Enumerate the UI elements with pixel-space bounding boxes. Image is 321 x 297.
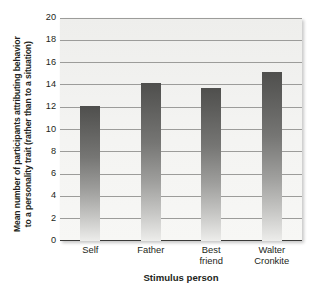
bar-best-friend [201,88,221,241]
y-tick-label-20: 20 [34,13,56,22]
x-tick-label-line: Cronkite [242,255,303,266]
y-tick-label-4: 4 [34,191,56,200]
x-tick-label-line: friend [181,255,242,266]
x-tick-label-line: Best [181,244,242,255]
y-tick-label-16: 16 [34,58,56,67]
gridline-16 [60,62,302,63]
x-tick-label-father: Father [121,244,182,255]
x-axis-title: Stimulus person [60,272,302,283]
x-tick-label-line: Father [121,244,182,255]
y-tick-label-8: 8 [34,147,56,156]
x-axis-tick-labels: SelfFatherBestfriendWalterCronkite [60,244,302,272]
y-tick-label-12: 12 [34,102,56,111]
x-tick-label-line: Walter [242,244,303,255]
gridline-18 [60,40,302,41]
y-axis-title-line-1: Mean number of participants attributing … [12,36,23,232]
bar-self [80,106,100,241]
x-tick-label-walter-cronkite: WalterCronkite [242,244,303,267]
bar-father [141,83,161,241]
x-tick-label-best-friend: Bestfriend [181,244,242,267]
y-tick-label-18: 18 [34,35,56,44]
bar-walter-cronkite [262,72,282,241]
y-tick-label-6: 6 [34,169,56,178]
bar-chart-figure: Mean number of participants attributing … [0,0,321,297]
x-tick-label-self: Self [60,244,121,255]
gridline-20 [60,18,302,19]
y-tick-label-2: 2 [34,214,56,223]
y-axis-tick-labels: 20181614121086420 [30,18,60,241]
y-tick-label-0: 0 [34,236,56,245]
y-tick-label-14: 14 [34,80,56,89]
plot-area [60,18,302,241]
y-tick-label-10: 10 [34,125,56,134]
x-tick-label-line: Self [60,244,121,255]
